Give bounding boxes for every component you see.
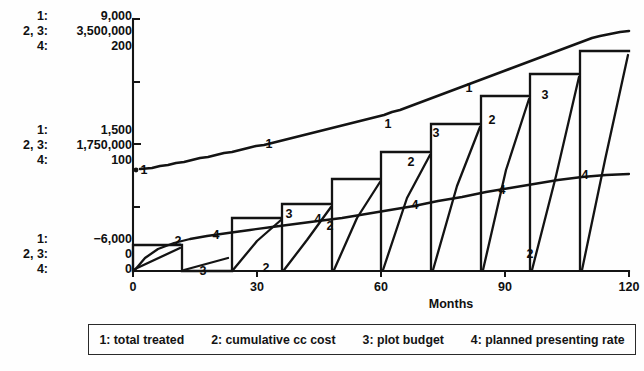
legend-entry-total-treated: 1: total treated	[99, 333, 184, 347]
legend-box: 1: total treated 2: cumulative cc cost 3…	[88, 324, 636, 355]
chart-figure: 1: 9,000 2, 3: 3,500,000 4: 200 1: 1,500…	[0, 0, 644, 371]
legend-entry-cumulative-cc-cost: 2: cumulative cc cost	[211, 333, 335, 347]
x-axis-title: Months	[0, 297, 644, 311]
legend-entry-planned-presenting-rate: 4: planned presenting rate	[471, 333, 625, 347]
x-tick-label: 0	[130, 280, 137, 294]
x-axis-title-text: Months	[429, 297, 473, 311]
legend-entries: 1: total treated 2: cumulative cc cost 3…	[89, 325, 635, 354]
plot-area	[0, 0, 644, 371]
x-tick-label: 120	[619, 280, 640, 294]
x-tick-label: 90	[498, 280, 512, 294]
series-plot-budget	[133, 51, 629, 271]
x-tick-label: 30	[250, 280, 264, 294]
legend-entry-plot-budget: 3: plot budget	[363, 333, 444, 347]
x-tick-label: 60	[374, 280, 388, 294]
